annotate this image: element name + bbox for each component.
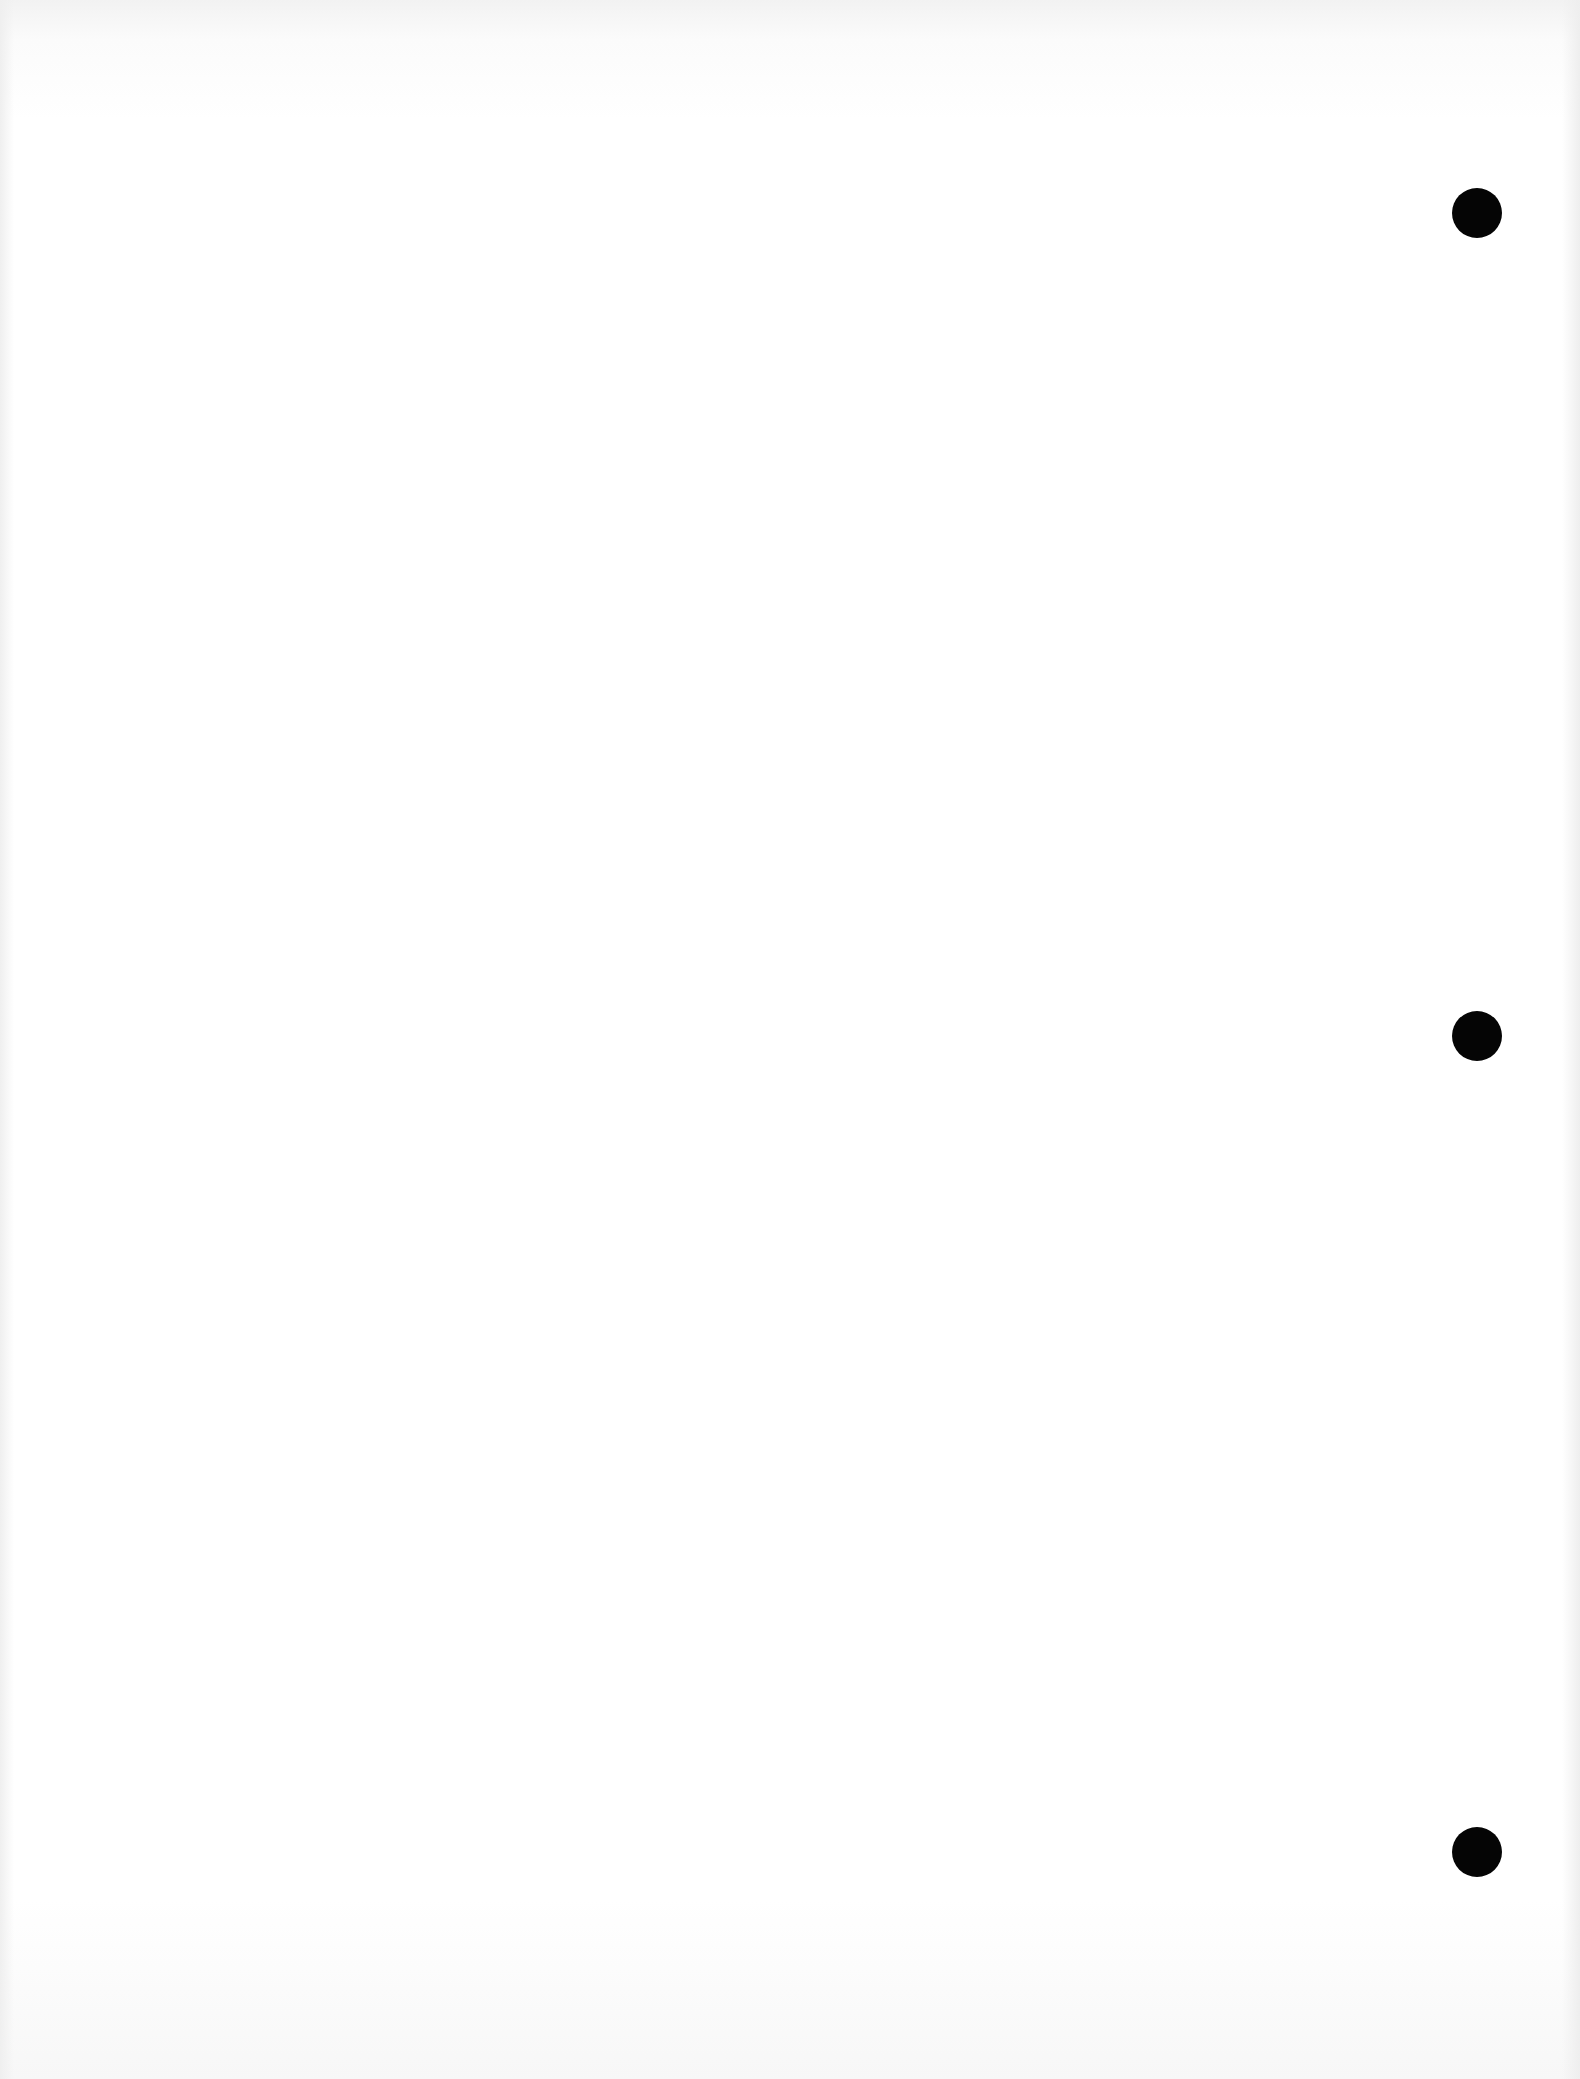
page-right-edge-shadow xyxy=(1562,0,1580,2079)
punch-hole-top xyxy=(1452,188,1502,238)
punch-hole-middle xyxy=(1452,1011,1502,1061)
page-left-edge-shadow xyxy=(0,0,14,2079)
punch-hole-bottom xyxy=(1452,1827,1502,1877)
blank-page xyxy=(0,0,1580,2079)
